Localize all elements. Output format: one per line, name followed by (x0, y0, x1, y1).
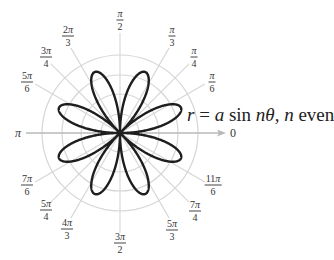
angle-label-4pi-over-3: 4π3 (61, 218, 73, 241)
angle-label-denominator: 6 (24, 186, 29, 197)
eq-sin: sin (224, 104, 256, 125)
angle-label-numerator: π (190, 46, 197, 58)
angle-label-numerator: π (208, 71, 215, 83)
angle-label-pi-over-6: π6 (208, 71, 215, 94)
angle-label-denominator: 4 (43, 211, 48, 222)
angle-label-7pi-over-6: 7π6 (21, 174, 33, 197)
eq-a: a (215, 104, 225, 125)
eq-even: even (294, 104, 334, 125)
angle-label-numerator: π (116, 9, 123, 21)
eq-n-theta: nθ (256, 104, 275, 125)
angle-label-denominator: 2 (117, 244, 122, 255)
angle-label-denominator: 3 (64, 230, 69, 241)
eq-equals: = (194, 104, 214, 125)
angle-label-numerator: π (168, 25, 175, 37)
angle-label-2pi-over-3: 2π3 (62, 25, 74, 48)
angle-label-numerator: 4π (61, 218, 73, 230)
angle-label-pi-over-2: π2 (116, 9, 123, 32)
angle-label-denominator: 3 (169, 231, 174, 242)
angle-label-numerator: 11π (205, 174, 222, 186)
angle-label-numerator: 5π (40, 199, 52, 211)
angle-label-numerator: 5π (166, 219, 178, 231)
angle-label-denominator: 3 (65, 37, 70, 48)
angle-label-7pi-over-4: 7π4 (189, 200, 201, 223)
eq-comma: , (275, 104, 285, 125)
angle-label-denominator: 6 (211, 186, 216, 197)
angle-label-denominator: 4 (191, 58, 196, 69)
angle-label-numerator: 7π (21, 174, 33, 186)
angle-label-numerator: 7π (189, 200, 201, 212)
angle-label-denominator: 4 (43, 58, 48, 69)
angle-label-numerator: 3π (40, 46, 52, 58)
angle-label-5pi-over-3: 5π3 (166, 219, 178, 242)
angle-label-denominator: 6 (24, 83, 29, 94)
angle-label-5pi-over-6: 5π6 (21, 71, 33, 94)
angle-label-pi-over-3: π3 (168, 25, 175, 48)
angle-label-3pi-over-2: 3π2 (114, 232, 126, 255)
axis-label-pi: π (15, 126, 21, 141)
angle-label-3pi-over-4: 3π4 (40, 46, 52, 69)
angle-label-numerator: 2π (62, 25, 74, 37)
angle-label-denominator: 3 (169, 37, 174, 48)
angle-label-denominator: 4 (192, 212, 197, 223)
angle-label-11pi-over-6: 11π6 (205, 174, 222, 197)
angle-label-numerator: 3π (114, 232, 126, 244)
angle-label-pi-over-4: π4 (190, 46, 197, 69)
eq-n: n (284, 104, 294, 125)
angle-label-numerator: 5π (21, 71, 33, 83)
axis-label-zero: 0 (230, 126, 236, 141)
angle-label-5pi-over-4: 5π4 (40, 199, 52, 222)
angle-label-denominator: 6 (209, 83, 214, 94)
angle-label-denominator: 2 (117, 21, 122, 32)
equation-label: r = a sin nθ, n even (187, 104, 334, 126)
